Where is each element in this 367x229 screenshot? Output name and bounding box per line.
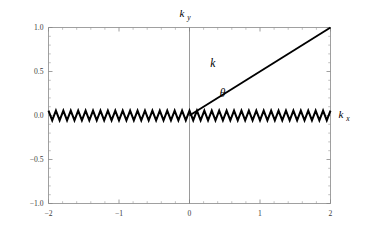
wave-vector-diagram-figure: −2−1012 1.00.50.0−0.5−1.0 k y k x kθ (0, 0, 367, 229)
theta-label: θ (220, 87, 226, 99)
y-tick-label: 1.0 (34, 23, 44, 32)
x-tick-label: −1 (115, 209, 123, 218)
x-tick-label: 1 (258, 209, 262, 218)
chart-canvas: −2−1012 1.00.50.0−0.5−1.0 k y k x kθ (0, 0, 367, 229)
x-axis-title-subscript: x (345, 114, 350, 123)
y-tick-label: 0.0 (34, 111, 44, 120)
y-tick-label: −1.0 (30, 199, 44, 208)
y-tick-label: −0.5 (30, 155, 44, 164)
x-tick-label: 0 (188, 209, 192, 218)
y-tick-label: 0.5 (34, 67, 44, 76)
x-tick-label: −2 (44, 209, 52, 218)
k-label: k (210, 57, 216, 69)
y-axis-title-subscript: y (186, 13, 191, 22)
x-tick-label: 2 (329, 209, 333, 218)
